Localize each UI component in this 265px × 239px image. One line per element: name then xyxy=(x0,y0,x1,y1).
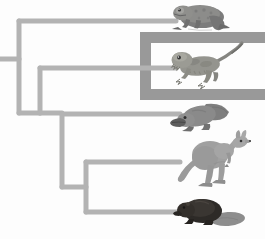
animal-lizard xyxy=(172,43,243,89)
animal-frog xyxy=(172,5,230,30)
animal-beaver xyxy=(173,199,245,227)
animal-platypus xyxy=(170,103,229,132)
cladogram-figure: Cladogram of tetrapod vertebrates frog l… xyxy=(0,0,265,239)
animal-images-layer xyxy=(0,0,265,239)
animal-kangaroo xyxy=(178,130,251,187)
